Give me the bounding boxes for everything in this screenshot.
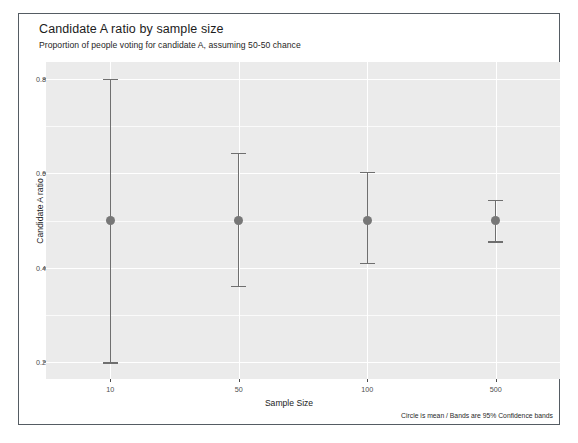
mean-point: [491, 216, 500, 225]
y-axis-title: Candidate A ratio: [35, 111, 45, 311]
y-axis-tick-label: 0.8: [16, 74, 46, 83]
plot-panel: [46, 62, 560, 379]
x-axis-tick-labels: 1050100500: [46, 379, 560, 397]
figure-frame: Candidate A ratio by sample size Proport…: [18, 13, 560, 425]
x-axis-tick-label: 500: [466, 385, 526, 394]
x-axis-tick-mark: [496, 379, 497, 382]
x-axis-tick-label: 10: [80, 385, 140, 394]
x-axis-tick-mark: [110, 379, 111, 382]
x-axis-title: Sample Size: [19, 398, 559, 408]
x-axis-tick-label: 50: [209, 385, 269, 394]
chart-subtitle: Proportion of people voting for candidat…: [39, 40, 301, 50]
y-axis-tick-mark: [43, 78, 46, 79]
y-axis-tick-mark: [43, 362, 46, 363]
errorbar-group: [46, 62, 560, 379]
chart-caption: Circle is mean / Bands are 95% Confidenc…: [401, 412, 553, 419]
y-axis-tick-label: 0.2: [16, 358, 46, 367]
errorbar-cap-lower: [488, 241, 503, 242]
x-axis-tick-mark: [239, 379, 240, 382]
errorbar-cap-upper: [488, 200, 503, 201]
chart-title: Candidate A ratio by sample size: [39, 22, 224, 36]
x-axis-tick-label: 100: [337, 385, 397, 394]
x-axis-tick-mark: [367, 379, 368, 382]
